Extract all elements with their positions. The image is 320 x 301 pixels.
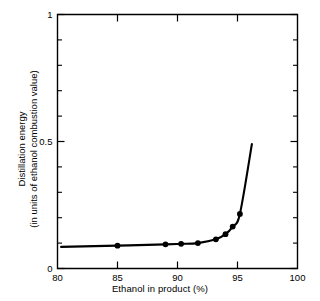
data-point-marker [178, 241, 184, 247]
x-axis-ticks-top [118, 15, 238, 22]
y-axis-ticks-right [291, 15, 298, 269]
chart-figure: 00.51 80859095100 Ethanol in product (%)… [0, 0, 320, 301]
x-tick-label: 80 [52, 272, 63, 283]
x-tick-label: 100 [290, 272, 306, 283]
data-series-distillation-energy [61, 144, 252, 249]
data-point-marker [230, 224, 236, 230]
series-line [61, 144, 252, 247]
x-tick-label: 90 [172, 272, 183, 283]
x-axis-ticks-bottom [118, 262, 238, 269]
series-markers [115, 211, 243, 249]
data-point-marker [115, 243, 121, 249]
y-axis-title-line-2: (in units of ethanol combustion value) [28, 70, 40, 227]
y-tick-label: 1 [47, 9, 52, 20]
x-tick-label: 95 [232, 272, 243, 283]
data-point-marker [213, 236, 219, 242]
distillation-energy-plot: 00.51 80859095100 [0, 0, 320, 301]
x-axis-title: Ethanol in product (%) [0, 283, 320, 294]
data-point-marker [163, 241, 169, 247]
data-point-marker [237, 211, 243, 217]
y-axis-ticks-left [58, 15, 65, 269]
plot-frame [58, 15, 298, 269]
x-tick-label: 85 [112, 272, 123, 283]
y-axis-title-line-1: Distillation energy [16, 112, 28, 187]
x-axis-tick-labels: 80859095100 [52, 272, 305, 283]
data-point-marker [223, 231, 229, 237]
data-point-marker [195, 240, 201, 246]
y-axis-title: Distillation energy (in units of ethanol… [12, 24, 44, 274]
